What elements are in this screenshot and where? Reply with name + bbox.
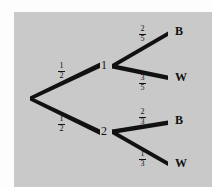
- prob-node1-to-w-denominator: 5: [140, 84, 146, 92]
- prob-node1-to-w: 3 5: [139, 74, 146, 92]
- leaf-label-upper-b: B: [175, 25, 183, 37]
- prob-node2-to-w-numerator: 1: [140, 150, 146, 158]
- prob-node1-to-b-numerator: 2: [140, 25, 146, 33]
- leaf-label-lower-w: W: [175, 157, 187, 169]
- node-label-1: 1: [101, 59, 107, 71]
- prob-node1-to-w-numerator: 3: [140, 74, 146, 82]
- prob-node2-to-b: 2 3: [139, 108, 146, 126]
- node-label-2: 2: [101, 125, 107, 137]
- prob-root-to-node2: 1 2: [58, 115, 65, 133]
- prob-node1-to-b: 2 5: [139, 25, 146, 43]
- prob-root-to-node2-denominator: 2: [59, 125, 65, 133]
- prob-root-to-node1-denominator: 2: [59, 72, 65, 80]
- branch-root-to-node2: [30, 97, 100, 136]
- prob-node2-to-b-denominator: 3: [140, 118, 146, 126]
- diagram-canvas: 1 2 B W B W 1 2 1 2 2 5 3 5 2 3 1 3: [0, 0, 212, 187]
- prob-node2-to-w: 1 3: [139, 150, 146, 168]
- prob-root-to-node2-numerator: 1: [59, 115, 65, 123]
- prob-node2-to-b-numerator: 2: [140, 108, 146, 116]
- leaf-label-upper-w: W: [175, 71, 187, 83]
- prob-node1-to-b-denominator: 5: [140, 35, 146, 43]
- prob-node2-to-w-denominator: 3: [140, 160, 146, 168]
- branch-root-to-node1: [30, 63, 100, 101]
- prob-root-to-node1: 1 2: [58, 62, 65, 80]
- prob-root-to-node1-numerator: 1: [59, 62, 65, 70]
- leaf-label-lower-b: B: [175, 114, 183, 126]
